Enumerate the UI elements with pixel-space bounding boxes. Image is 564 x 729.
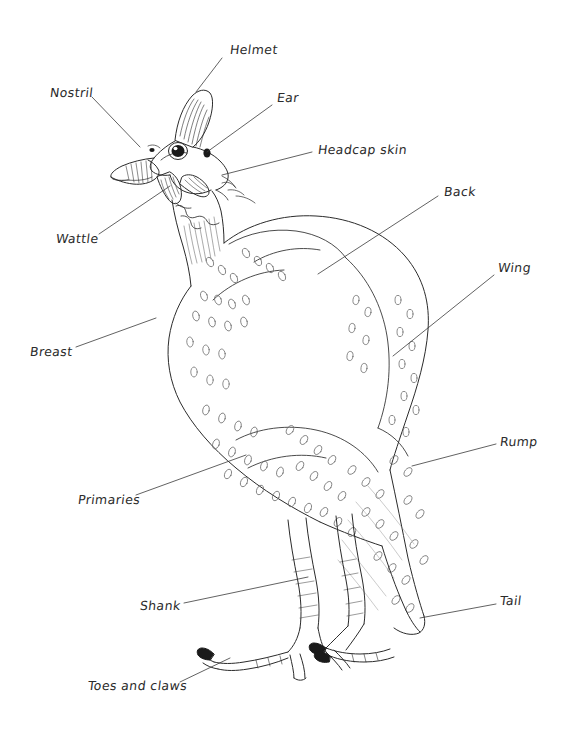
label-wattle: Wattle (55, 231, 99, 246)
leader-tail (420, 604, 496, 618)
leader-back (318, 196, 438, 274)
neck (172, 182, 255, 286)
label-helmet: Helmet (229, 42, 279, 57)
label-primaries: Primaries (77, 492, 141, 507)
label-shank: Shank (139, 598, 182, 613)
plumage-spots (186, 247, 429, 614)
guineafowl-illustration (0, 0, 564, 729)
label-rump: Rump (499, 434, 539, 449)
leader-rump (412, 444, 496, 466)
label-wing: Wing (497, 260, 532, 275)
nostril-mark (149, 148, 154, 152)
leader-shank (184, 577, 308, 603)
beak (111, 145, 160, 184)
anatomy-diagram-page: Helmet Nostril Ear Headcap skin Wattle B… (0, 0, 564, 729)
toes-and-claws (197, 624, 394, 680)
leader-helmet (196, 58, 222, 92)
wing (213, 230, 408, 472)
leader-headcap-skin (222, 152, 312, 175)
label-breast: Breast (29, 344, 73, 359)
leader-nostril (92, 97, 140, 147)
label-headcap-skin: Headcap skin (317, 142, 408, 157)
label-toes-and-claws: Toes and claws (87, 678, 188, 693)
label-back: Back (443, 184, 477, 199)
leader-lines (76, 58, 496, 682)
leader-ear (207, 105, 272, 152)
leader-wing (393, 275, 494, 356)
label-tail: Tail (499, 593, 523, 608)
wattle (157, 172, 209, 208)
label-ear: Ear (276, 90, 300, 105)
leader-breast (76, 318, 156, 347)
label-nostril: Nostril (49, 85, 94, 100)
leader-primaries (136, 455, 246, 495)
helmet-casque (175, 90, 213, 147)
leader-wattle (99, 186, 170, 234)
legs (288, 514, 365, 652)
